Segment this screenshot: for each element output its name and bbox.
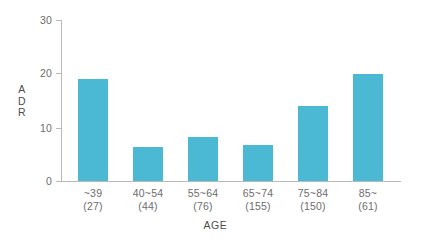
x-category-range-5: 85~ [332, 187, 404, 200]
bar-3 [243, 145, 273, 181]
y-tick-label-10: 10 [22, 123, 52, 134]
x-category-label-5: 85~ (61) [332, 187, 404, 213]
y-tick-label-0: 0 [22, 176, 52, 187]
bar-5 [353, 74, 383, 181]
y-axis-title-line-0: A [14, 84, 30, 96]
bar-2 [188, 137, 218, 181]
y-tick-label-30: 30 [22, 15, 52, 26]
y-axis-title: A D R [14, 84, 30, 119]
x-category-count-5: (61) [332, 200, 404, 213]
y-tick-mark-0 [56, 181, 61, 182]
bar-1 [133, 147, 163, 181]
y-tick-mark-30 [56, 20, 61, 21]
y-tick-label-20: 20 [22, 68, 52, 79]
plot-area [62, 20, 400, 181]
y-axis-title-line-2: R [14, 107, 30, 119]
bar-chart: 30 20 10 0 ~39 (27) 40~54 (44) 55~64 (76… [0, 0, 431, 244]
x-axis-line [61, 181, 401, 182]
x-axis-title: AGE [0, 219, 431, 231]
y-tick-mark-20 [56, 73, 61, 74]
y-tick-mark-10 [56, 128, 61, 129]
bar-4 [298, 106, 328, 181]
bar-0 [78, 79, 108, 182]
